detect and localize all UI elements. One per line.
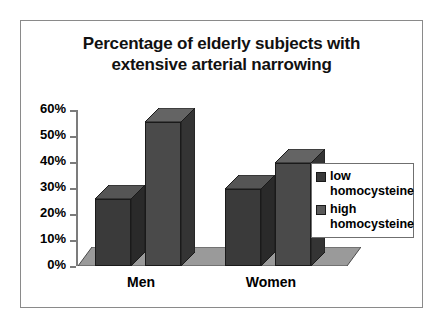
legend-item-high-homocysteine[interactable]: high homocysteine [316,202,409,232]
bar-men-high[interactable] [145,122,181,266]
legend-label-low-word1: low [330,169,414,184]
y-axis-tick-40: 40% [70,162,76,164]
x-axis-label-women: Women [221,274,321,290]
y-axis-tick-60: 60% [70,110,76,112]
y-axis-label-0: 0% [47,257,66,272]
y-axis-label-30: 30% [40,179,66,194]
y-axis-tick-0: 0% [70,266,76,268]
legend-label-high: high homocysteine [330,202,414,232]
x-axis-label-men: Men [101,274,181,290]
y-axis-tick-10: 10% [70,240,76,242]
bar-women-low[interactable] [225,189,261,266]
y-axis-label-20: 20% [40,205,66,220]
chart-legend: low homocysteine high homocysteine [311,163,414,238]
y-axis-tick-50: 50% [70,136,76,138]
y-axis-label-60: 60% [40,101,66,116]
legend-label-low-word2: homocysteine [330,184,414,199]
legend-item-low-homocysteine[interactable]: low homocysteine [316,169,409,199]
bar-men-low[interactable] [95,199,131,266]
y-axis-label-40: 40% [40,153,66,168]
y-axis-label-50: 50% [40,127,66,142]
y-axis-line [76,110,78,266]
legend-label-low: low homocysteine [330,169,414,199]
bar-women-high[interactable] [275,163,311,266]
legend-swatch-high-icon [316,205,326,215]
y-axis-tick-30: 30% [70,188,76,190]
legend-label-high-word2: homocysteine [330,217,414,232]
legend-swatch-low-icon [316,172,326,182]
chart-frame: Percentage of elderly subjects with exte… [20,20,423,308]
y-axis-label-10: 10% [40,231,66,246]
legend-label-high-word1: high [330,202,414,217]
y-axis-tick-20: 20% [70,214,76,216]
